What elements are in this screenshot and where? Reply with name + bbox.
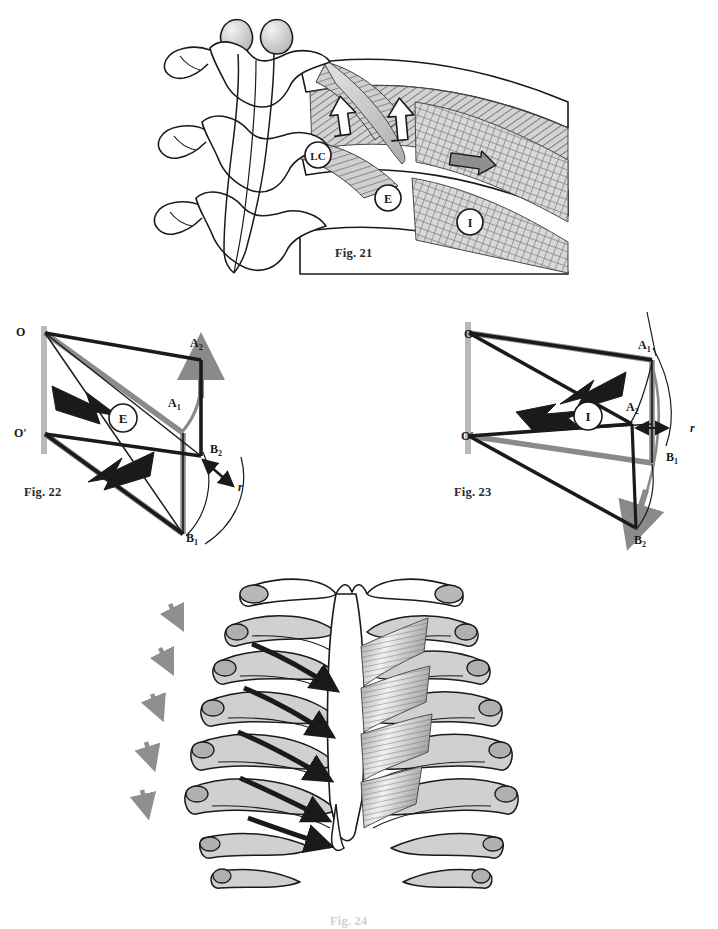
fig21-cervical-vertebrae (154, 20, 330, 274)
fig22-vertex-A1-base: A (168, 396, 177, 410)
figure-23-drawing: I (440, 300, 718, 560)
fig22-arrow-expiration-lower (88, 452, 154, 490)
fig22-vertex-A2-sub: 2 (199, 343, 203, 352)
fig22-vertex-B1-base: B (186, 531, 194, 545)
fig22-vertex-O: O (16, 325, 25, 340)
fig23-vertex-B1-sub: 1 (674, 457, 678, 466)
fig21-arrow-internal-intercostal (449, 147, 498, 177)
figure-23-caption: Fig. 23 (454, 485, 492, 500)
fig22-vertex-A1: A1 (168, 396, 181, 412)
figure-21-caption: Fig. 21 (335, 246, 373, 261)
fig21-arrow-external-intercostal (386, 97, 416, 141)
fig22-black-frame (45, 333, 201, 534)
fig23-vertex-A1-sub: 1 (647, 345, 651, 354)
fig23-vertex-A2-base: A (626, 400, 635, 414)
fig23-vertex-A1-base: A (638, 338, 647, 352)
fig22-label-E-text: E (119, 411, 128, 426)
fig21-label-I: I (457, 209, 483, 235)
fig23-vertex-O: O (464, 327, 473, 342)
fig22-vertex-A2-base: A (190, 336, 199, 350)
fig22-vertex-A2: A2 (190, 336, 203, 352)
fig23-label-r: r (690, 421, 695, 436)
fig23-vertex-B2-sub: 2 (642, 540, 646, 549)
fig22-vertex-A1-sub: 1 (177, 403, 181, 412)
fig21-scalene-muscle (320, 56, 405, 164)
figure-23: I O O' A1 A2 B1 B2 r Fig. 23 (440, 300, 718, 560)
fig24-clavicles (240, 579, 463, 606)
fig22-vertex-B1-sub: 1 (194, 538, 198, 547)
figure-24-drawing (140, 566, 580, 924)
fig24-right-ribs (367, 616, 518, 888)
figure-21: LC E I Fig. 21 (150, 10, 570, 275)
figure-24: Fig. 24 (140, 566, 580, 924)
fig23-vertex-B2: B2 (634, 533, 646, 549)
figure-22: E O O' A2 A1 B2 B1 r Fig. 22 (0, 300, 290, 560)
fig23-vertex-A2: A2 (626, 400, 639, 416)
fig21-label-LC: LC (305, 142, 331, 168)
figure-22-caption: Fig. 22 (24, 485, 62, 500)
fig21-levator-costae-muscle (296, 62, 402, 198)
fig23-vertex-B2-base: B (634, 533, 642, 547)
figure-22-drawing: E (0, 300, 290, 560)
fig24-rib-descent-arrows (142, 604, 182, 816)
figure-21-drawing: LC E I (150, 10, 570, 275)
fig23-label-I: I (574, 402, 602, 430)
fig21-label-LC-text: LC (310, 150, 325, 162)
fig22-label-r: r (238, 480, 243, 495)
fig21-internal-intercostal-muscle (412, 102, 568, 273)
fig22-vertex-B1: B1 (186, 531, 198, 547)
figure-24-caption: Fig. 24 (330, 914, 368, 929)
fig22-vertex-B2-sub: 2 (218, 449, 222, 458)
fig23-vertex-O-prime: O' (461, 429, 474, 444)
fig21-label-I-text: I (468, 216, 473, 230)
fig23-label-I-text: I (585, 409, 590, 424)
fig22-arrow-expiration-upper (52, 386, 118, 424)
fig22-axis-bar (41, 326, 47, 454)
fig23-vertex-B1: B1 (666, 450, 678, 466)
fig22-label-E: E (109, 404, 137, 432)
fig22-vertex-O-prime: O' (14, 426, 27, 441)
fig23-vertex-B1-base: B (666, 450, 674, 464)
fig23-vertex-A1: A1 (638, 338, 651, 354)
fig24-rib-elevation-arrows (238, 644, 336, 846)
fig21-arrow-levator-costae (327, 94, 358, 136)
fig21-ribs (300, 59, 568, 274)
fig23-vertex-A2-sub: 2 (635, 407, 639, 416)
fig24-left-ribs (185, 616, 336, 888)
fig24-external-intercostal-sheet (361, 618, 432, 828)
fig23-black-frame (469, 333, 652, 528)
fig22-gray-vectors (45, 333, 201, 534)
fig21-external-intercostal-muscle (310, 85, 568, 192)
fig23-gray-vectors (469, 333, 659, 522)
fig22-vertex-B2-base: B (210, 442, 218, 456)
fig24-sternum (328, 594, 365, 850)
fig21-label-E-text: E (384, 192, 392, 206)
fig21-label-E: E (375, 185, 401, 211)
fig22-vertex-B2: B2 (210, 442, 222, 458)
